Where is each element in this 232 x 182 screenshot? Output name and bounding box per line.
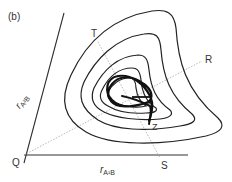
point-label-Q: Q (12, 158, 20, 168)
y-axis-line (24, 13, 64, 163)
diagram-canvas (0, 0, 232, 182)
point-label-Z: Z (152, 123, 158, 132)
x-axis-subscript: A¹B (103, 169, 115, 176)
point-label-R: R (205, 55, 212, 65)
contour-1 (65, 10, 222, 143)
x-axis-label: rA¹B (100, 165, 115, 176)
phase-diagram: (b) T R Z Q S rA¹B rA²B (0, 0, 232, 182)
point-label-T: T (91, 29, 97, 39)
panel-label: (b) (8, 12, 20, 22)
point-label-S: S (161, 161, 168, 171)
